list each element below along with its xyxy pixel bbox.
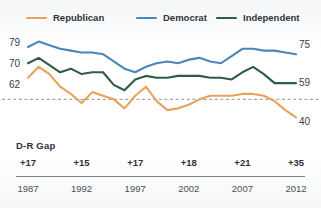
axis-rule <box>16 176 305 177</box>
plot-area <box>0 26 321 138</box>
gap-value-4: +21 <box>215 157 269 168</box>
legend-label-republican: Republican <box>53 12 104 23</box>
series-line-republican <box>28 67 296 118</box>
year-label-3: 2002 <box>162 183 216 194</box>
year-axis-row: 198719921997200220072012 <box>0 183 321 196</box>
legend-item-republican: Republican <box>26 10 104 24</box>
legend-swatch-republican <box>26 17 47 19</box>
gap-section-title: D-R Gap <box>16 140 55 151</box>
chart-root: Republican Democrat Independent 79 70 62… <box>0 0 321 208</box>
gap-values-row: +17+15+17+18+21+35 <box>0 157 321 170</box>
gap-value-3: +18 <box>162 157 216 168</box>
plot-svg <box>0 26 321 138</box>
axis-label-end-democrat: 75 <box>299 39 310 50</box>
year-label-2: 1997 <box>108 183 162 194</box>
gap-value-1: +15 <box>55 157 109 168</box>
legend-label-independent: Independent <box>243 12 299 23</box>
axis-label-start-democrat: 79 <box>9 37 20 48</box>
axis-label-start-republican: 62 <box>9 79 20 90</box>
chart-legend: Republican Democrat Independent <box>0 10 321 24</box>
legend-swatch-democrat <box>136 17 157 19</box>
year-label-5: 2012 <box>269 183 321 194</box>
year-label-4: 2007 <box>215 183 269 194</box>
gap-value-0: +17 <box>1 157 55 168</box>
legend-label-democrat: Democrat <box>163 12 207 23</box>
year-label-1: 1992 <box>55 183 109 194</box>
legend-swatch-independent <box>216 17 237 19</box>
gap-value-5: +35 <box>269 157 321 168</box>
axis-label-start-independent: 70 <box>9 58 20 69</box>
axis-label-end-republican: 40 <box>299 116 310 127</box>
gap-value-2: +17 <box>108 157 162 168</box>
year-label-0: 1987 <box>1 183 55 194</box>
axis-label-end-independent: 59 <box>299 77 310 88</box>
legend-item-independent: Independent <box>216 10 299 24</box>
legend-item-democrat: Democrat <box>136 10 207 24</box>
